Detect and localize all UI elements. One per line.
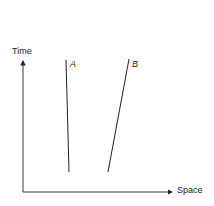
space-axis-label: Space [177,186,203,195]
worldline-b-label: B [132,60,138,69]
worldline-a-label: A [70,60,76,69]
time-axis-label: Time [12,47,32,56]
worldline-a [66,60,69,172]
spacetime-diagram [0,0,214,206]
worldline-b [108,59,129,172]
